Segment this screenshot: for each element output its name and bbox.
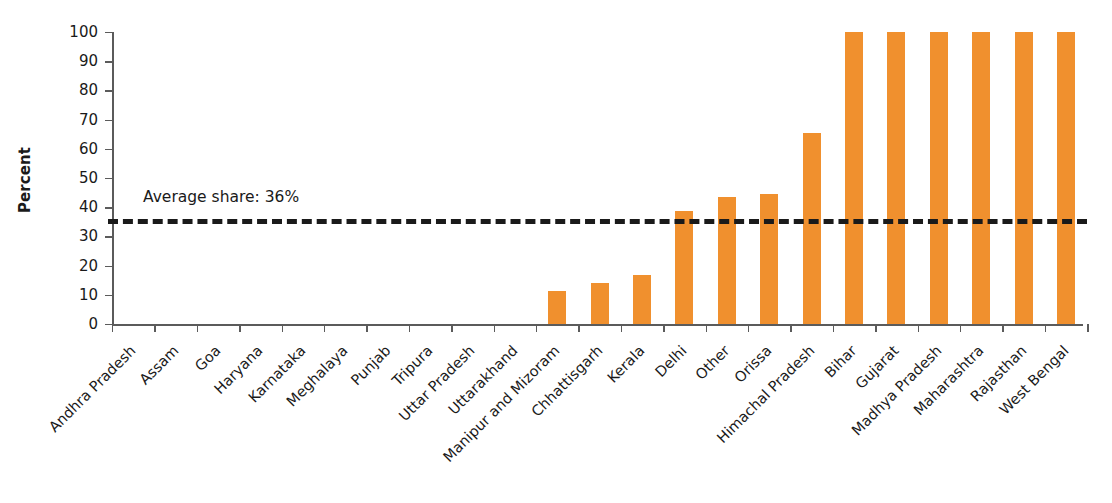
x-tick-mark xyxy=(197,324,198,332)
y-tick-label: 0 xyxy=(88,315,98,333)
y-tick-mark xyxy=(105,295,112,296)
y-axis-tick-labels: 0102030405060708090100 xyxy=(0,32,112,324)
x-tick-mark xyxy=(494,324,495,332)
y-tick-mark xyxy=(105,32,112,33)
x-tick-mark xyxy=(1045,324,1046,332)
y-tick-mark xyxy=(105,90,112,91)
y-tick-mark xyxy=(105,61,112,62)
x-tick-mark xyxy=(282,324,283,332)
x-tick-mark xyxy=(1087,324,1088,332)
bar xyxy=(760,194,778,324)
x-tick-mark xyxy=(918,324,919,332)
y-axis-line xyxy=(112,32,114,324)
x-tick-mark xyxy=(578,324,579,332)
x-tick-mark xyxy=(1002,324,1003,332)
bar xyxy=(803,133,821,324)
y-tick-label: 10 xyxy=(79,286,98,304)
y-tick-label: 50 xyxy=(79,169,98,187)
bar xyxy=(1015,32,1033,324)
y-tick-label: 20 xyxy=(79,257,98,275)
average-share-label: Average share: 36% xyxy=(143,188,299,206)
bar xyxy=(845,32,863,324)
y-tick-label: 80 xyxy=(79,81,98,99)
y-tick-label: 90 xyxy=(79,52,98,70)
average-share-line xyxy=(108,219,1087,224)
plot-area: Average share: 36% xyxy=(112,32,1083,324)
bar xyxy=(591,283,609,324)
y-tick-label: 100 xyxy=(69,23,98,41)
bar xyxy=(633,275,651,324)
x-tick-mark xyxy=(790,324,791,332)
x-tick-mark xyxy=(366,324,367,332)
bar xyxy=(930,32,948,324)
y-tick-mark xyxy=(105,324,112,325)
y-tick-mark xyxy=(105,178,112,179)
y-tick-mark xyxy=(105,266,112,267)
y-tick-label: 30 xyxy=(79,227,98,245)
bar xyxy=(675,211,693,324)
x-tick-mark xyxy=(451,324,452,332)
x-tick-mark xyxy=(706,324,707,332)
y-tick-label: 70 xyxy=(79,111,98,129)
bar xyxy=(887,32,905,324)
y-tick-mark xyxy=(105,207,112,208)
bar xyxy=(1057,32,1075,324)
x-tick-mark xyxy=(112,324,113,332)
x-tick-mark xyxy=(154,324,155,332)
x-tick-mark xyxy=(239,324,240,332)
bar xyxy=(972,32,990,324)
x-tick-mark xyxy=(875,324,876,332)
bar xyxy=(548,291,566,324)
y-tick-mark xyxy=(105,120,112,121)
bar-chart: Percent 0102030405060708090100 Average s… xyxy=(0,0,1112,503)
x-tick-mark xyxy=(324,324,325,332)
x-tick-mark xyxy=(536,324,537,332)
x-tick-mark xyxy=(663,324,664,332)
y-tick-label: 40 xyxy=(79,198,98,216)
x-tick-mark xyxy=(748,324,749,332)
y-tick-label: 60 xyxy=(79,140,98,158)
x-axis-line xyxy=(112,324,1083,326)
x-tick-mark xyxy=(409,324,410,332)
x-tick-mark xyxy=(960,324,961,332)
bar xyxy=(718,197,736,324)
y-tick-mark xyxy=(105,149,112,150)
x-tick-mark xyxy=(833,324,834,332)
x-tick-mark xyxy=(621,324,622,332)
y-tick-mark xyxy=(105,236,112,237)
